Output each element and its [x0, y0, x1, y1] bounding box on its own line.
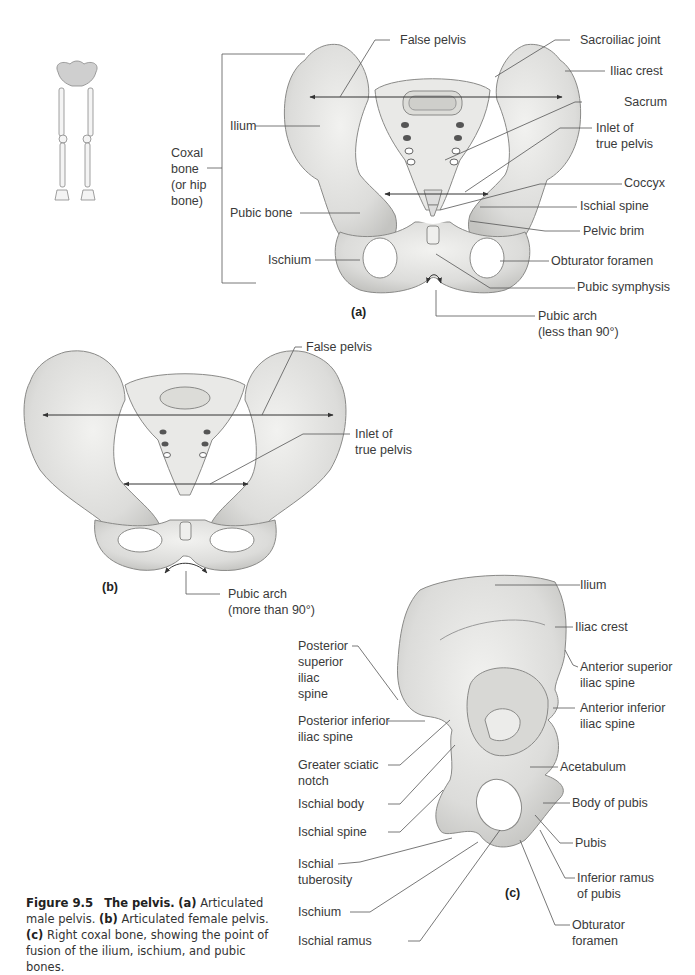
label-asis-line1: Anterior superior — [580, 660, 672, 675]
label-ischial-ramus: Ischial ramus — [298, 934, 372, 949]
label-gsn-line2: notch — [298, 774, 329, 789]
label-pubic-arch-a-line1: Pubic arch — [538, 309, 597, 324]
caption-marker-c: (c) — [26, 928, 43, 942]
label-coxal-line4: bone) — [171, 194, 203, 209]
label-psis-line1: Posterior — [298, 639, 348, 654]
figure-title: The pelvis. — [104, 896, 174, 910]
caption-text-c: Right coxal bone, showing the point of f… — [26, 928, 268, 974]
label-coxal-line2: bone — [171, 162, 199, 177]
female-pelvis-illustration — [24, 351, 346, 571]
label-coxal-line3: (or hip — [171, 178, 206, 193]
label-acetabulum: Acetabulum — [560, 760, 626, 775]
panel-letter-a: (a) — [351, 305, 366, 319]
figure-caption: Figure 9.5 The pelvis. (a) Articulated m… — [26, 895, 281, 975]
label-piis-line1: Posterior inferior — [298, 714, 390, 729]
panel-letter-c: (c) — [505, 886, 520, 900]
label-body-of-pubis: Body of pubis — [572, 796, 648, 811]
label-ischial-tuberosity-line1: Ischial — [298, 857, 333, 872]
label-iliac-crest-c: Iliac crest — [575, 620, 628, 635]
label-false-pelvis-a: False pelvis — [400, 33, 466, 48]
label-ischium-a: Ischium — [268, 253, 311, 268]
label-pubic-arch-b-line2: (more than 90°) — [228, 603, 315, 618]
label-obturator-foramen-c-line2: foramen — [572, 934, 618, 949]
label-sacrum: Sacrum — [624, 95, 667, 110]
label-iliac-crest-a: Iliac crest — [610, 64, 663, 79]
panel-letter-b: (b) — [102, 580, 118, 594]
label-ischium-c: Ischium — [298, 905, 341, 920]
label-ischial-body: Ischial body — [298, 797, 364, 812]
label-ischial-spine-c: Ischial spine — [298, 825, 367, 840]
label-inferior-ramus-line2: of pubis — [577, 887, 621, 902]
label-inlet-true-pelvis-a-line1: Inlet of — [596, 121, 634, 136]
label-ilium-c: Ilium — [580, 578, 606, 593]
label-psis-line4: spine — [298, 687, 328, 702]
label-obturator-foramen-c-line1: Obturator — [572, 918, 625, 933]
label-inlet-true-pelvis-a-line2: true pelvis — [596, 137, 653, 152]
label-pubic-symphysis: Pubic symphysis — [577, 280, 670, 295]
skeleton-orientation-icon — [55, 61, 97, 200]
label-pubic-arch-a-line2: (less than 90°) — [538, 325, 619, 340]
label-gsn-line1: Greater sciatic — [298, 758, 379, 773]
label-asis-line2: iliac spine — [580, 676, 635, 691]
label-pelvic-brim: Pelvic brim — [583, 224, 644, 239]
label-inlet-true-pelvis-b-line1: Inlet of — [355, 427, 393, 442]
label-false-pelvis-b: False pelvis — [306, 340, 372, 355]
caption-text-b: Articulated female pelvis. — [121, 912, 268, 926]
label-inferior-ramus-line1: Inferior ramus — [577, 871, 654, 886]
label-ischial-tuberosity-line2: tuberosity — [298, 873, 352, 888]
label-ischial-spine-a: Ischial spine — [580, 199, 649, 214]
caption-marker-b: (b) — [99, 912, 118, 926]
label-obturator-foramen-a: Obturator foramen — [551, 254, 653, 269]
label-psis-line2: superior — [298, 655, 343, 670]
caption-marker-a: (a) — [178, 896, 196, 910]
label-pubic-bone: Pubic bone — [230, 206, 293, 221]
label-pubic-arch-b-line1: Pubic arch — [228, 587, 287, 602]
label-piis-line2: iliac spine — [298, 730, 353, 745]
label-inlet-true-pelvis-b-line2: true pelvis — [355, 443, 412, 458]
figure-number: Figure 9.5 — [26, 895, 93, 910]
label-aiis-line2: iliac spine — [580, 717, 635, 732]
label-ilium-a: Ilium — [230, 119, 256, 134]
right-coxal-bone-illustration — [397, 575, 566, 847]
label-psis-line3: iliac — [298, 671, 320, 686]
label-coccyx: Coccyx — [624, 176, 665, 191]
label-pubis: Pubis — [575, 836, 606, 851]
label-sacroiliac-joint: Sacroiliac joint — [580, 33, 661, 48]
label-coxal-line1: Coxal — [171, 146, 203, 161]
label-aiis-line1: Anterior inferior — [580, 701, 665, 716]
male-pelvis-illustration — [284, 44, 580, 292]
